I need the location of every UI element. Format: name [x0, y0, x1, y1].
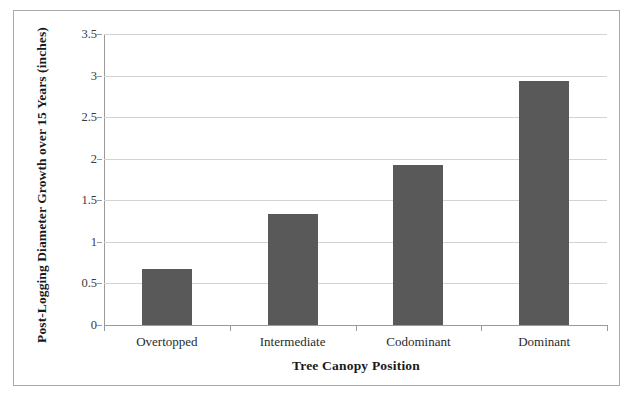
x-tick-label: Intermediate: [230, 334, 356, 350]
y-tick-label: 1.5: [57, 193, 97, 208]
y-tick-mark: [97, 76, 102, 77]
x-tick-mark: [230, 325, 231, 331]
gridline: [104, 76, 607, 77]
bar: [268, 214, 318, 325]
x-tick-label: Overtopped: [104, 334, 230, 350]
y-tick-label: 2: [57, 151, 97, 166]
gridline: [104, 34, 607, 35]
x-axis-tick-labels: OvertoppedIntermediateCodominantDominant: [104, 334, 608, 356]
y-tick-mark: [97, 283, 102, 284]
x-tick-mark: [607, 325, 608, 331]
y-tick-label: 3: [57, 68, 97, 83]
y-tick-mark: [97, 242, 102, 243]
x-tick-mark: [356, 325, 357, 331]
chart-screenshot: Post-Logging Diameter Growth over 15 Yea…: [0, 0, 632, 399]
y-axis-title-text: Post-Logging Diameter Growth over 15 Yea…: [34, 25, 50, 345]
bar: [393, 165, 443, 325]
x-tick-label: Dominant: [481, 334, 607, 350]
y-tick-label: 3.5: [57, 27, 97, 42]
bar: [142, 269, 192, 325]
x-tick-label: Codominant: [356, 334, 482, 350]
y-tick-mark: [97, 117, 102, 118]
y-tick-mark: [97, 200, 102, 201]
bar: [519, 81, 569, 325]
y-tick-mark: [97, 325, 102, 326]
x-tick-mark: [481, 325, 482, 331]
x-axis-title: Tree Canopy Position: [104, 358, 608, 374]
y-tick-label: 0: [57, 318, 97, 333]
plot-area: [104, 34, 607, 325]
y-tick-mark: [97, 159, 102, 160]
y-tick-mark: [97, 34, 102, 35]
y-tick-label: 2.5: [57, 110, 97, 125]
y-axis-tick-labels: 00.511.522.533.5: [55, 34, 97, 325]
y-tick-label: 1: [57, 234, 97, 249]
y-tick-label: 0.5: [57, 276, 97, 291]
x-tick-mark: [104, 325, 105, 331]
